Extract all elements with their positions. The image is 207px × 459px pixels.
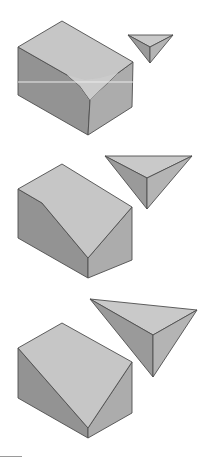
step-1-group bbox=[18, 21, 173, 135]
footer-rule bbox=[0, 456, 22, 457]
step-2-group bbox=[18, 156, 192, 278]
step-3-group bbox=[18, 299, 197, 438]
diagram-canvas bbox=[0, 0, 207, 459]
